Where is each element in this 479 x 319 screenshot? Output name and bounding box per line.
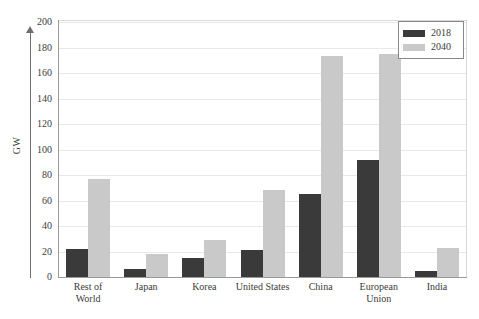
y-tick-label: 0 (12, 272, 52, 282)
bar-2040[interactable] (263, 190, 285, 277)
bar-2040[interactable] (379, 54, 401, 277)
bar-chart: GW 020406080100120140160180200 Rest of W… (0, 0, 479, 319)
y-tick-label: 100 (12, 145, 52, 155)
bar-2018[interactable] (357, 160, 379, 277)
bar-group (415, 22, 459, 277)
bar-2018[interactable] (182, 258, 204, 277)
y-tick-label: 40 (12, 221, 52, 231)
bar-group (66, 22, 110, 277)
legend-item-2040[interactable]: 2040 (403, 40, 458, 54)
y-tick-label: 160 (12, 68, 52, 78)
legend-label-2040: 2040 (431, 42, 451, 52)
x-tick-label: India (400, 281, 474, 293)
bar-group (357, 22, 401, 277)
y-tick-label: 120 (12, 119, 52, 129)
legend-label-2018: 2018 (431, 28, 451, 38)
legend-swatch-2040 (403, 44, 425, 51)
bar-group (182, 22, 226, 277)
bar-2018[interactable] (299, 194, 321, 277)
bar-2040[interactable] (437, 248, 459, 277)
bar-2018[interactable] (66, 249, 88, 277)
bar-2018[interactable] (124, 269, 146, 277)
plot-border-right (466, 20, 467, 278)
bar-group (124, 22, 168, 277)
legend: 2018 2040 (398, 21, 464, 59)
bar-2040[interactable] (321, 56, 343, 277)
y-tick-label: 60 (12, 196, 52, 206)
y-tick-label: 180 (12, 43, 52, 53)
bar-2018[interactable] (241, 250, 263, 277)
bar-2040[interactable] (204, 240, 226, 277)
y-axis-tick-labels: 020406080100120140160180200 (8, 22, 52, 277)
bar-2040[interactable] (88, 179, 110, 277)
y-tick-label: 80 (12, 170, 52, 180)
y-tick-label: 200 (12, 17, 52, 27)
y-tick-label: 20 (12, 247, 52, 257)
legend-item-2018[interactable]: 2018 (403, 26, 458, 40)
bar-group (299, 22, 343, 277)
bar-2040[interactable] (146, 254, 168, 277)
bar-2018[interactable] (415, 271, 437, 277)
plot-area (59, 22, 466, 277)
y-tick-label: 140 (12, 94, 52, 104)
legend-swatch-2018 (403, 30, 425, 37)
x-axis-line (58, 277, 467, 278)
bar-group (241, 22, 285, 277)
y-tick-mark (66, 277, 70, 278)
